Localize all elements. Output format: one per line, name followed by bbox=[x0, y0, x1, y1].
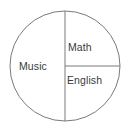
pie-slice-label-math: Math bbox=[68, 42, 92, 53]
pie-slice-label-music: Music bbox=[19, 61, 47, 72]
pie-slice-label-english: English bbox=[67, 75, 102, 86]
pie-chart-figure: Math English Music bbox=[0, 0, 128, 131]
